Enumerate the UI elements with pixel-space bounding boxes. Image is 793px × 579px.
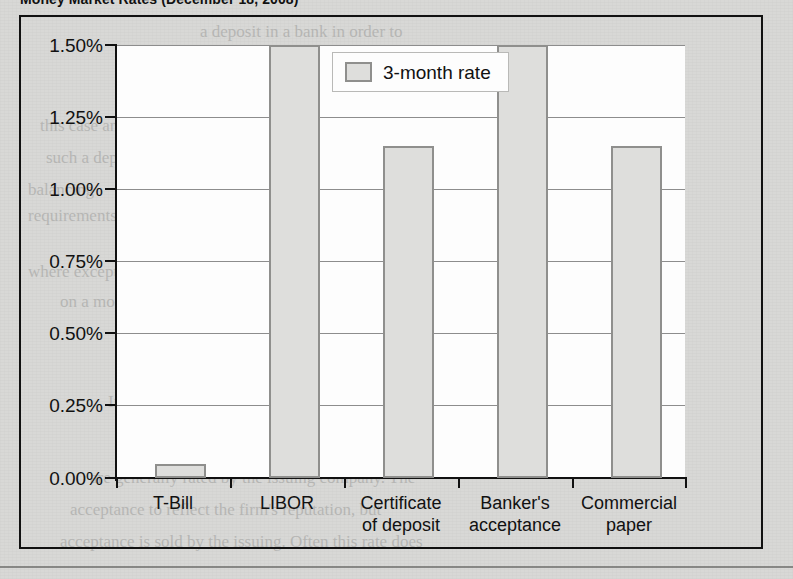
y-axis-label: 1.00% xyxy=(49,180,103,199)
y-axis-line xyxy=(115,44,117,481)
y-tick-0.25 xyxy=(105,404,117,406)
legend[interactable]: 3-month rate xyxy=(332,52,509,92)
bar-t-bill[interactable] xyxy=(155,464,206,478)
y-tick-0.75 xyxy=(105,260,117,262)
x-tick-boundary xyxy=(458,477,460,488)
y-axis-label: 1.25% xyxy=(49,108,103,127)
x-tick-boundary xyxy=(230,477,232,488)
x-axis-label-line2: paper xyxy=(572,514,686,536)
y-tick-1.50 xyxy=(105,44,117,46)
y-axis-label: 0.50% xyxy=(49,324,103,343)
y-tick-1.00 xyxy=(105,188,117,190)
bar-libor[interactable] xyxy=(269,45,320,478)
legend-label-3-month-rate: 3-month rate xyxy=(383,63,491,82)
x-tick-boundary xyxy=(685,477,687,488)
x-axis-label-line2: acceptance xyxy=(458,514,572,536)
x-axis-label-certificate-of-deposit: Certificate of deposit xyxy=(344,492,458,536)
x-axis-label-line2: of deposit xyxy=(344,514,458,536)
x-axis-label-line1: LIBOR xyxy=(230,492,344,514)
x-axis-label-line1: Certificate xyxy=(344,492,458,514)
x-tick-boundary xyxy=(344,477,346,488)
y-axis-labels: 1.50% 1.25% 1.00% 0.75% 0.50% 0.25% 0.00… xyxy=(0,0,103,579)
x-axis-label-libor: LIBOR xyxy=(230,492,344,514)
y-tick-0.50 xyxy=(105,332,117,334)
legend-swatch-3-month-rate xyxy=(345,62,372,82)
x-axis-label-t-bill: T-Bill xyxy=(116,492,230,514)
y-tick-1.25 xyxy=(105,116,117,118)
x-axis-label-line1: Banker's xyxy=(458,492,572,514)
y-axis-label: 1.50% xyxy=(49,36,103,55)
page-bottom-rule xyxy=(0,566,793,568)
x-axis-label-line1: T-Bill xyxy=(116,492,230,514)
x-tick-boundary xyxy=(116,477,118,488)
bar-commercial-paper[interactable] xyxy=(611,146,662,478)
bar-certificate-of-deposit[interactable] xyxy=(383,146,434,478)
gridline-1.50 xyxy=(117,45,685,46)
x-tick-boundary xyxy=(572,477,574,488)
x-axis-label-commercial-paper: Commercial paper xyxy=(572,492,686,536)
y-axis-label: 0.75% xyxy=(49,252,103,271)
x-axis-label-line1: Commercial xyxy=(572,492,686,514)
y-axis-label: 0.00% xyxy=(49,469,103,488)
gridline-1.25 xyxy=(117,117,685,118)
bar-bankers-acceptance[interactable] xyxy=(497,45,548,478)
x-axis-label-bankers-acceptance: Banker's acceptance xyxy=(458,492,572,536)
y-axis-label: 0.25% xyxy=(49,396,103,415)
